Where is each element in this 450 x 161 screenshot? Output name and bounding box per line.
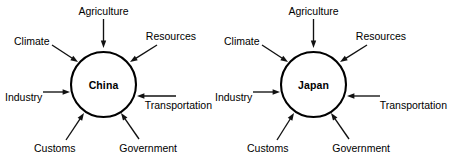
hub-label-japan: Japan: [298, 79, 329, 91]
factor-label-transportation-china: Transportation: [145, 99, 212, 111]
factor-label-customs-japan: Customs: [247, 142, 288, 154]
connector-line-customs: [277, 119, 290, 140]
arrowhead-transportation: [137, 93, 144, 98]
hub-label-china: China: [89, 79, 119, 91]
factor-label-transportation-japan: Transportation: [380, 99, 447, 111]
factor-label-customs-china: Customs: [34, 142, 75, 154]
arrowhead-customs: [78, 113, 84, 121]
factor-label-industry-china: Industry: [5, 91, 42, 103]
factor-label-industry-japan: Industry: [215, 91, 252, 103]
arrowhead-government: [121, 113, 127, 121]
connector-line-customs: [66, 119, 80, 140]
factor-label-climate-japan: Climate: [224, 35, 260, 47]
diagram-canvas: China Japan Agriculture Climate Resource…: [0, 0, 450, 161]
arrowhead-agriculture: [311, 41, 316, 48]
factor-label-resources-japan: Resources: [356, 30, 406, 42]
connector-line-government: [125, 119, 139, 139]
diagram-vector-layer: [0, 0, 450, 161]
arrowhead-climate: [70, 56, 78, 62]
connector-line-climate: [52, 45, 72, 58]
factor-label-agriculture-japan: Agriculture: [288, 5, 338, 17]
factor-label-agriculture-china: Agriculture: [78, 5, 128, 17]
arrowhead-transportation: [347, 93, 354, 98]
connector-line-climate: [262, 45, 282, 58]
factor-label-government-japan: Government: [332, 142, 390, 154]
arrowhead-agriculture: [101, 41, 106, 48]
arrowhead-government: [331, 113, 337, 121]
connector-line-resources: [136, 45, 157, 58]
connector-line-resources: [346, 45, 367, 58]
arrowhead-customs: [288, 113, 294, 121]
arrowhead-climate: [280, 56, 288, 62]
arrowhead-industry: [273, 89, 280, 94]
arrowhead-industry: [63, 89, 70, 94]
connector-line-government: [335, 119, 349, 139]
arrowhead-resources: [130, 56, 138, 62]
arrowhead-resources: [340, 56, 348, 62]
factor-label-climate-china: Climate: [14, 35, 50, 47]
factor-label-government-china: Government: [119, 142, 177, 154]
factor-label-resources-china: Resources: [146, 30, 196, 42]
